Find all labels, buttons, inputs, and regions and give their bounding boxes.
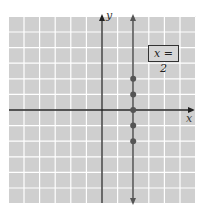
point	[130, 107, 136, 113]
coordinate-plane	[0, 0, 204, 217]
y-axis-label: y	[106, 9, 112, 22]
equation-label: x = 2	[148, 45, 179, 62]
point	[130, 91, 136, 97]
point	[130, 76, 136, 82]
x-axis-label: x	[186, 112, 192, 125]
point	[130, 123, 136, 129]
point	[130, 138, 136, 144]
